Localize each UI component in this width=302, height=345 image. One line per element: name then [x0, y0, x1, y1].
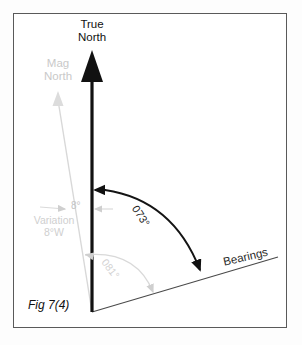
true-north-label: True North — [63, 18, 121, 44]
figure-caption: Fig 7(4) — [28, 299, 69, 312]
bearing-line — [92, 257, 278, 312]
diagram-canvas — [0, 0, 302, 345]
mag-north-label: Mag North — [34, 57, 82, 83]
figure-container: True North Mag North 8° Variation 8°W 07… — [0, 0, 302, 345]
variation-label: Variation 8°W — [19, 215, 89, 239]
variation-angle-label: 8° — [71, 200, 81, 211]
true-north-arrow — [81, 50, 103, 312]
